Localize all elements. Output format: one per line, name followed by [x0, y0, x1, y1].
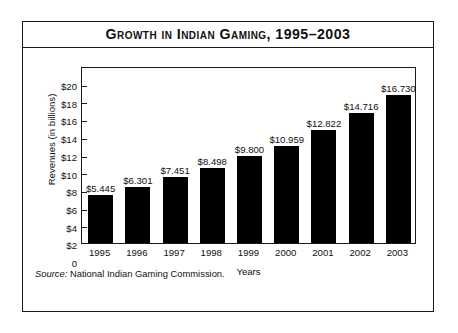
plot-area: $5.445$6.301$7.451$8.498$9.800$10.959$12… [81, 67, 416, 244]
y-axis-tick-label: 0 [72, 258, 77, 269]
page-title: Growth in Indian Gaming, 1995–2003 [106, 27, 351, 42]
bar-value-label: $8.498 [198, 156, 227, 167]
y-axis-tick-mark [82, 139, 87, 140]
y-axis-tick-label: $2 [66, 240, 77, 251]
x-axis-tick-label: 1998 [201, 247, 222, 258]
x-axis-tick-labels: 199519961997199819992000200120022003 [81, 247, 416, 261]
bar-value-label: $7.451 [160, 165, 189, 176]
y-axis-tick-mark [82, 227, 87, 228]
y-axis-tick-label: $6 [66, 204, 77, 215]
y-axis-tick-mark [82, 121, 87, 122]
y-axis-tick-label: $20 [61, 81, 77, 92]
x-axis-tick-label: 1996 [126, 247, 147, 258]
bar-value-label: $6.301 [123, 175, 152, 186]
bar [237, 156, 262, 243]
x-axis-tick-label: 2000 [275, 247, 296, 258]
y-axis-tick-label: $8 [66, 187, 77, 198]
bar [386, 95, 411, 243]
y-axis-tick-mark [82, 210, 87, 211]
y-axis-tick-label: $10 [61, 169, 77, 180]
y-axis-tick-mark [82, 174, 87, 175]
title-band: Growth in Indian Gaming, 1995–2003 [23, 22, 433, 48]
bar-value-label: $12.822 [307, 118, 342, 129]
y-axis-tick-labels: $20$18$16$14$12$10$8$6$4$20 [23, 67, 77, 244]
y-axis-tick-mark [82, 103, 87, 104]
y-axis-tick-label: $12 [61, 151, 77, 162]
y-axis-tick-label: $18 [61, 98, 77, 109]
x-axis-tick-label: 1995 [89, 247, 110, 258]
x-axis-tick-label: 2003 [387, 247, 408, 258]
y-axis-tick-label: $14 [61, 134, 77, 145]
y-axis-tick-mark [82, 157, 87, 158]
figure-frame: Growth in Indian Gaming, 1995–2003 Reven… [22, 21, 434, 312]
bar-value-label: $10.959 [269, 134, 304, 145]
bar [311, 130, 336, 243]
bar [125, 187, 150, 243]
bar [163, 177, 188, 243]
x-axis-tick-label: 1997 [163, 247, 184, 258]
y-axis-tick-label: $4 [66, 222, 77, 233]
x-axis-tick-label: 1999 [238, 247, 259, 258]
x-axis-tick-label: 2001 [312, 247, 333, 258]
y-axis-tick-label: $16 [61, 116, 77, 127]
bar [349, 113, 374, 243]
bar [88, 195, 113, 243]
bar-value-label: $9.800 [235, 144, 264, 155]
source-label: Source: [35, 268, 67, 279]
bar [200, 168, 225, 243]
source-value: National Indian Gaming Commission. [70, 268, 225, 279]
x-axis-tick-label: 2002 [349, 247, 370, 258]
bar-value-label: $5.445 [86, 183, 115, 194]
source-note: Source: National Indian Gaming Commissio… [35, 268, 225, 279]
y-axis-tick-mark [82, 86, 87, 87]
bar [274, 146, 299, 243]
bar-value-label: $16.730 [381, 83, 416, 94]
bar-value-label: $14.716 [344, 101, 379, 112]
